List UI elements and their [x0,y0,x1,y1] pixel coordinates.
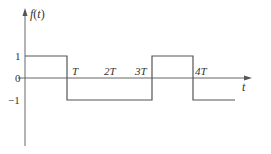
x-tick-2T: 2T [104,66,116,77]
y-axis-label: f(t) [30,8,45,20]
x-axis-arrow-icon [244,76,252,81]
x-tick-T: T [72,66,78,77]
y-axis-arrow-icon [23,8,28,16]
y-tick-0: 0 [15,73,21,84]
x-axis-label: t [242,81,245,93]
x-tick-4T: 4T [195,66,207,77]
y-tick-neg1: −1 [8,95,20,106]
square-wave-diagram: f(t) 1 0 −1 T 2T 3T 4T t [0,0,271,154]
diagram-graphics [0,0,271,154]
y-tick-1: 1 [15,51,21,62]
x-tick-3T: 3T [135,66,147,77]
